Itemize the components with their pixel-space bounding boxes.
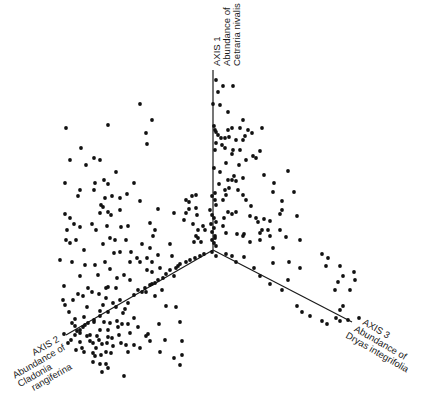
- data-point: [195, 213, 199, 217]
- data-point: [73, 333, 77, 337]
- data-point: [126, 301, 130, 305]
- data-point: [114, 170, 118, 174]
- data-point: [161, 276, 165, 280]
- data-point: [230, 254, 234, 258]
- data-point: [78, 188, 82, 192]
- data-point: [187, 200, 191, 204]
- data-point: [91, 341, 95, 345]
- data-point: [96, 273, 100, 277]
- data-point: [74, 238, 78, 242]
- data-point: [88, 333, 92, 337]
- data-point: [187, 207, 191, 211]
- data-point: [320, 252, 324, 256]
- data-point: [163, 338, 167, 342]
- data-point: [201, 224, 205, 228]
- data-point: [105, 341, 109, 345]
- data-point: [146, 332, 150, 336]
- data-point: [190, 194, 194, 198]
- data-point: [98, 362, 102, 366]
- data-point: [286, 278, 290, 282]
- data-point: [199, 240, 203, 244]
- data-point: [82, 350, 86, 354]
- data-point: [138, 199, 142, 203]
- data-point: [295, 214, 299, 218]
- data-point: [78, 340, 82, 344]
- data-point: [123, 307, 127, 311]
- data-point: [114, 305, 118, 309]
- data-point: [271, 190, 275, 194]
- data-point: [150, 118, 154, 122]
- data-point: [97, 338, 101, 342]
- data-point: [202, 252, 206, 256]
- data-point: [106, 285, 110, 289]
- data-point: [227, 186, 231, 190]
- data-point: [250, 131, 254, 135]
- data-point: [70, 260, 74, 264]
- data-point: [156, 278, 160, 282]
- data-point: [198, 254, 202, 258]
- data-point: [86, 321, 90, 325]
- data-points-layer: [58, 78, 361, 378]
- data-point: [148, 246, 152, 250]
- data-point: [338, 319, 342, 323]
- data-point: [84, 163, 88, 167]
- data-point: [106, 366, 110, 370]
- data-point: [172, 274, 176, 278]
- data-point: [213, 191, 217, 195]
- data-point: [248, 214, 252, 218]
- data-point: [238, 126, 242, 130]
- data-point: [212, 216, 216, 220]
- data-point: [213, 236, 217, 240]
- data-point: [266, 228, 270, 232]
- data-point: [224, 231, 228, 235]
- data-point: [66, 341, 70, 345]
- data-point: [135, 256, 139, 260]
- data-point: [230, 212, 234, 216]
- data-point: [132, 293, 136, 297]
- data-point: [272, 181, 276, 185]
- data-point: [209, 222, 213, 226]
- data-point: [218, 170, 222, 174]
- data-point: [74, 348, 78, 352]
- data-point: [61, 298, 65, 302]
- data-point: [98, 314, 102, 318]
- data-point: [324, 264, 328, 268]
- data-point: [224, 252, 228, 256]
- data-point: [106, 182, 110, 186]
- data-point: [153, 294, 157, 298]
- data-point: [211, 102, 215, 106]
- data-point: [188, 258, 192, 262]
- data-point: [69, 338, 73, 342]
- data-point: [214, 254, 218, 258]
- data-point: [214, 130, 218, 134]
- data-point: [213, 148, 217, 152]
- data-point: [102, 178, 106, 182]
- data-point: [280, 199, 284, 203]
- data-point: [341, 274, 345, 278]
- data-point: [262, 217, 266, 221]
- data-point: [194, 193, 198, 197]
- data-point: [124, 343, 128, 347]
- data-point: [326, 256, 330, 260]
- data-point: [106, 328, 110, 332]
- data-point: [76, 194, 80, 198]
- data-point: [126, 350, 130, 354]
- data-point: [214, 220, 218, 224]
- data-point: [260, 126, 264, 130]
- data-point: [338, 264, 342, 268]
- data-point: [92, 188, 96, 192]
- axis1-label: AXIS 1 Abundance of Cetraria nivalis: [211, 3, 242, 66]
- data-point: [287, 260, 291, 264]
- data-point: [242, 255, 246, 259]
- data-point: [144, 290, 148, 294]
- data-point: [333, 288, 337, 292]
- data-point: [70, 321, 74, 325]
- data-point: [258, 274, 262, 278]
- data-point: [160, 288, 164, 292]
- data-point: [298, 238, 302, 242]
- data-point: [357, 316, 361, 320]
- data-point: [63, 181, 67, 185]
- data-point: [241, 138, 245, 142]
- data-point: [129, 250, 133, 254]
- data-point: [111, 344, 115, 348]
